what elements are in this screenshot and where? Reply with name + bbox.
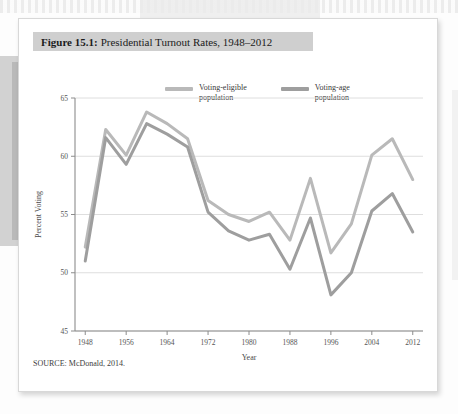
y-tick-label-45: 45 bbox=[61, 327, 69, 336]
y-tick-label-50: 50 bbox=[61, 268, 69, 277]
x-tick-label-1956: 1956 bbox=[119, 338, 134, 347]
figure-source: SOURCE: McDonald, 2014. bbox=[33, 359, 125, 368]
line-chart-svg: 4550556065194819561964197219801988199620… bbox=[19, 19, 439, 393]
x-tick-label-1988: 1988 bbox=[282, 338, 297, 347]
backdrop-right-edge bbox=[452, 90, 458, 280]
chart-plot-area: 4550556065194819561964197219801988199620… bbox=[19, 19, 439, 393]
x-tick-label-1948: 1948 bbox=[78, 338, 93, 347]
y-tick-label-65: 65 bbox=[61, 94, 69, 103]
figure-card: Figure 15.1: Presidential Turnout Rates,… bbox=[18, 18, 438, 392]
y-tick-label-60: 60 bbox=[61, 152, 69, 161]
y-axis-title: Percent Voting bbox=[34, 191, 43, 238]
y-tick-label-55: 55 bbox=[61, 210, 69, 219]
x-tick-label-1996: 1996 bbox=[323, 338, 338, 347]
x-axis-title: Year bbox=[242, 353, 257, 362]
x-tick-label-1980: 1980 bbox=[242, 338, 257, 347]
x-tick-label-2012: 2012 bbox=[405, 338, 420, 347]
series-line-voting-age bbox=[85, 124, 413, 295]
x-tick-label-2004: 2004 bbox=[364, 338, 379, 347]
x-tick-label-1964: 1964 bbox=[160, 338, 175, 347]
x-tick-label-1972: 1972 bbox=[201, 338, 216, 347]
